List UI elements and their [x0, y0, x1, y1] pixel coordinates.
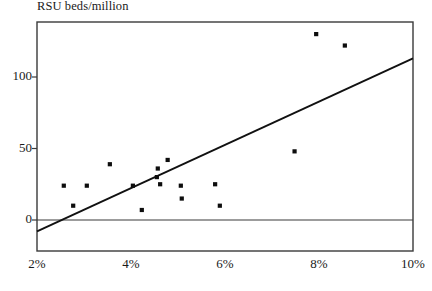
y-tick-label: 0	[2, 211, 32, 227]
x-tick-label: 10%	[393, 256, 432, 272]
data-points	[62, 32, 347, 212]
x-tick-label: 4%	[111, 256, 151, 272]
x-tick-label: 8%	[299, 256, 339, 272]
x-tick-label: 6%	[205, 256, 245, 272]
trend-line	[37, 58, 413, 231]
y-tick-label: 100	[2, 68, 32, 84]
y-tick-label: 50	[2, 140, 32, 156]
scatter-plot	[0, 0, 432, 291]
x-tick-label: 2%	[17, 256, 57, 272]
plot-frame	[32, 22, 413, 251]
chart-container: RSU beds/million 050100 2%4%6%8%10%	[0, 0, 432, 291]
